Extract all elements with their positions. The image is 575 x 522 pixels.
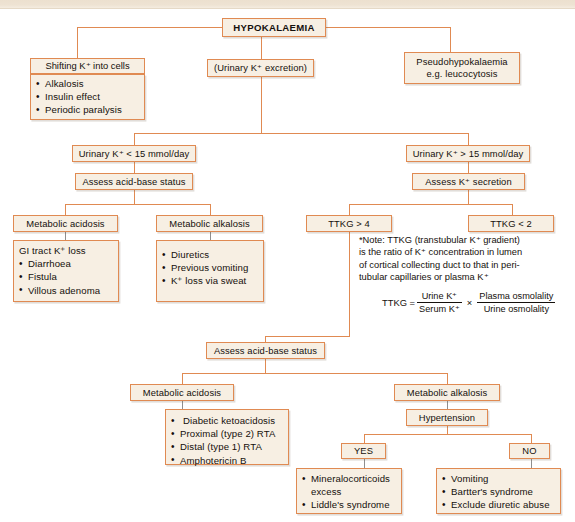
connector-root-right <box>325 27 451 28</box>
connector-high-to-assess <box>468 162 469 173</box>
gi-tract-items: Diarrhoea Fistula Villous adenoma <box>17 257 115 297</box>
connector-urinary-split-bus <box>134 133 469 134</box>
ttkg-note: *Note: TTKG (transtubular K⁺ gradient) i… <box>359 234 522 283</box>
node-hypertension[interactable]: Hypertension <box>406 409 488 426</box>
node-assess-acid-base-upper[interactable]: Assess acid-base status <box>75 173 193 190</box>
node-no-causes[interactable]: Vomiting Bartter's syndrome Exclude diur… <box>436 468 561 514</box>
list-item: Bartter's syndrome <box>440 485 557 498</box>
ttkg-note-line4: tubular capillaries or plasma K⁺ <box>359 271 522 283</box>
ttkg-formula-label: TTKG = <box>382 297 415 309</box>
node-assess-acid-base-upper-label: Assess acid-base status <box>82 176 185 187</box>
connector-low-to-assess <box>134 162 135 173</box>
connector-to-urinary-high <box>468 133 469 145</box>
node-gi-tract-losses[interactable]: GI tract K⁺ loss Diarrhoea Fistula Villo… <box>13 240 119 302</box>
node-hypertension-no-label: NO <box>522 445 536 456</box>
connector-to-ttkg-high <box>349 204 350 215</box>
ttkg-formula-operator: × <box>467 297 472 309</box>
gi-tract-header: GI tract K⁺ loss <box>17 244 115 257</box>
list-item: Proximal (type 2) RTA <box>169 427 285 440</box>
node-assess-k-secretion-label: Assess K⁺ secretion <box>425 176 512 187</box>
node-metabolic-alkalosis-lower-label: Metabolic alkalosis <box>407 387 487 398</box>
node-acidosis-lower-causes[interactable]: Diabetic ketoacidosis Proximal (type 2) … <box>165 409 289 465</box>
node-shifting-k-list[interactable]: Alkalosis Insulin effect Periodic paraly… <box>30 74 145 120</box>
list-item: Periodic paralysis <box>34 103 141 116</box>
node-metabolic-acidosis-lower-label: Metabolic acidosis <box>143 387 221 398</box>
list-item: Amphotericin B <box>169 454 285 467</box>
node-hypokalaemia-label: HYPOKALAEMIA <box>233 22 314 33</box>
list-item: Liddle's syndrome <box>300 498 398 511</box>
ttkg-note-line3: of cortical collecting duct to that in p… <box>359 259 522 271</box>
node-urinary-k-excretion[interactable]: (Urinary K⁺ excretion) <box>207 59 314 77</box>
node-urinary-k-high-label: Urinary K⁺ > 15 mmol/day <box>413 148 524 159</box>
no-items: Vomiting Bartter's syndrome Exclude diur… <box>440 472 557 512</box>
node-urinary-k-low[interactable]: Urinary K⁺ < 15 mmol/day <box>72 145 196 162</box>
list-item: Distal (type 1) RTA <box>169 440 285 453</box>
connector-to-yes <box>364 434 365 443</box>
connector-to-metabolic-acidosis-upper <box>65 204 66 215</box>
list-item: Fistula <box>17 270 115 283</box>
list-item: Diarrhoea <box>17 257 115 270</box>
node-hypokalaemia[interactable]: HYPOKALAEMIA <box>222 18 326 37</box>
connector-assess-right-down <box>468 190 469 204</box>
ttkg-formula-f2-numerator: Plasma osmolality <box>477 291 555 303</box>
connector-root-left <box>77 27 223 28</box>
node-urinary-k-high[interactable]: Urinary K⁺ > 15 mmol/day <box>406 145 530 162</box>
list-item: Vomiting <box>440 472 557 485</box>
connector-to-urinary-low <box>134 133 135 145</box>
list-item: Insulin effect <box>34 90 141 103</box>
connector-assess-lower-down <box>265 359 266 373</box>
connector-hypertension-down <box>447 426 448 434</box>
node-assess-acid-base-lower-label: Assess acid-base status <box>214 345 317 356</box>
ttkg-formula-fraction-2: Plasma osmolality Urine osmolality <box>477 291 555 315</box>
connector-ttkg-high-to-assess-lower <box>265 336 350 337</box>
connector-acidosis-to-gi-list <box>65 232 66 240</box>
list-item: K⁺ loss via sweat <box>160 274 260 287</box>
list-item: Villous adenoma <box>17 284 115 297</box>
node-alkalosis-causes[interactable]: Diuretics Previous vomiting K⁺ loss via … <box>156 240 264 302</box>
list-item: Diabetic ketoacidosis <box>169 414 285 427</box>
list-item: Exclude diuretic abuse <box>440 498 557 511</box>
connector-left-split-bus <box>65 204 211 205</box>
list-item: Diuretics <box>160 248 260 261</box>
acidosis-lower-items: Diabetic ketoacidosis Proximal (type 2) … <box>169 414 285 467</box>
ttkg-formula-fraction-1: Urine K⁺ Serum K⁺ <box>417 291 462 315</box>
connector-to-metabolic-acidosis-lower <box>182 373 183 384</box>
node-hypertension-yes[interactable]: YES <box>341 443 386 459</box>
node-pseudohypokalaemia[interactable]: Pseudohypokalaemia e.g. leucocytosis <box>404 52 520 84</box>
connector-ttkg-high-down <box>349 232 350 336</box>
node-assess-acid-base-lower[interactable]: Assess acid-base status <box>206 342 325 359</box>
node-ttkg-low[interactable]: TTKG < 2 <box>468 215 554 232</box>
node-pseudohypokalaemia-line1: Pseudohypokalaemia <box>416 56 507 68</box>
node-ttkg-high[interactable]: TTKG > 4 <box>306 215 392 232</box>
node-metabolic-alkalosis-lower[interactable]: Metabolic alkalosis <box>394 384 500 401</box>
node-metabolic-acidosis-upper-label: Metabolic acidosis <box>26 218 104 229</box>
connector-hypertension-split-bus <box>364 434 532 435</box>
node-metabolic-acidosis-lower[interactable]: Metabolic acidosis <box>130 384 234 401</box>
node-metabolic-acidosis-upper[interactable]: Metabolic acidosis <box>13 215 118 232</box>
node-metabolic-alkalosis-upper[interactable]: Metabolic alkalosis <box>156 215 263 232</box>
connector-to-metabolic-alkalosis-upper <box>210 204 211 215</box>
node-yes-causes[interactable]: Mineralocorticoids excess Liddle's syndr… <box>296 468 402 514</box>
node-assess-k-secretion[interactable]: Assess K⁺ secretion <box>412 173 525 190</box>
connector-root-to-shifting <box>77 27 78 58</box>
ttkg-note-line1: *Note: TTKG (transtubular K⁺ gradient) <box>359 234 522 246</box>
connector-to-no <box>531 434 532 443</box>
node-hypertension-label: Hypertension <box>419 412 475 423</box>
list-item: Alkalosis <box>34 77 141 90</box>
connector-alkalosis-lower-to-hypertension <box>447 401 448 409</box>
node-ttkg-high-label: TTKG > 4 <box>328 218 370 229</box>
connector-root-to-pseudo <box>450 27 451 52</box>
ttkg-note-line2: is the ratio of K⁺ concentration in lume… <box>359 246 522 258</box>
ttkg-formula-f2-denominator: Urine osmolality <box>477 303 555 315</box>
connector-acidosis-lower-to-list <box>182 401 183 409</box>
list-item: Previous vomiting <box>160 261 260 274</box>
node-urinary-k-excretion-label: (Urinary K⁺ excretion) <box>214 62 307 73</box>
node-hypertension-no[interactable]: NO <box>509 443 550 459</box>
node-pseudohypokalaemia-line2: e.g. leucocytosis <box>427 68 498 80</box>
list-item: Mineralocorticoids <box>300 472 398 485</box>
node-shifting-k-header-label: Shifting K⁺ into cells <box>45 60 129 71</box>
flowchart-canvas: HYPOKALAEMIA Shifting K⁺ into cells Alka… <box>0 0 575 522</box>
connector-yes-to-list <box>364 459 365 468</box>
node-metabolic-alkalosis-upper-label: Metabolic alkalosis <box>169 218 249 229</box>
node-shifting-k-header[interactable]: Shifting K⁺ into cells <box>30 58 145 74</box>
